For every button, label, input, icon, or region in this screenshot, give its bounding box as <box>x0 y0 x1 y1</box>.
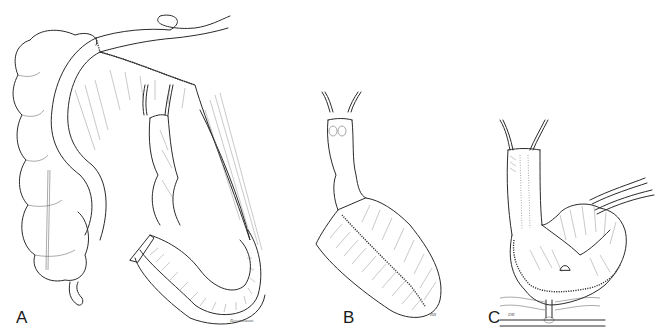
reservoir-illustration <box>316 198 441 317</box>
pouch-illustration <box>143 85 180 225</box>
panel-c: C DR <box>470 0 665 333</box>
panel-c-signature: DR <box>508 312 515 317</box>
panel-a-illustration <box>0 0 300 333</box>
panel-c-label: C <box>488 308 500 328</box>
stoma-illustration <box>500 297 605 326</box>
efferent-limb-illustration <box>507 149 542 236</box>
tubes-illustration <box>322 92 361 112</box>
panel-b-illustration <box>300 0 470 333</box>
bowel-segment-illustration <box>327 119 366 211</box>
panel-c-illustration <box>470 0 665 333</box>
catheters-illustration <box>500 120 654 214</box>
pouch-illustration <box>510 204 626 305</box>
mesentery-illustration <box>75 52 262 250</box>
panel-b-label: B <box>343 308 354 328</box>
panel-b: B RB <box>300 0 470 333</box>
panel-b-signature: RB <box>430 312 436 317</box>
opened-segment-illustration <box>130 230 265 324</box>
colon-illustration <box>13 30 97 305</box>
ileal-limb-illustration <box>51 15 230 240</box>
panel-a: A Rosenbaum <box>0 0 300 333</box>
panel-a-label: A <box>16 308 27 328</box>
panel-a-signature: Rosenbaum <box>230 318 253 323</box>
